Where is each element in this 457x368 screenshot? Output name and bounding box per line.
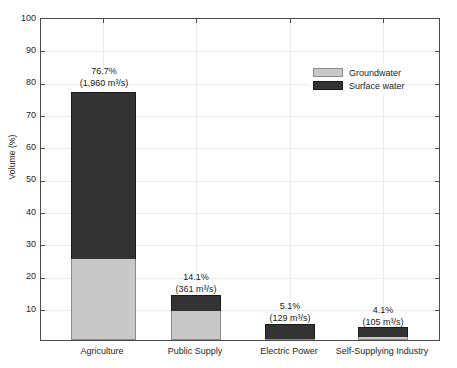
bar-annotation-flow-self-supplying-industry: (105 m³/s) — [313, 316, 453, 328]
y-tick-mark-right-50 — [435, 181, 439, 182]
y-tick-mark-70 — [41, 116, 45, 117]
y-tick-mark-40 — [41, 213, 45, 214]
y-tick-label-20: 20 — [6, 272, 36, 281]
y-tick-mark-60 — [41, 148, 45, 149]
bar-annotation-percent-public-supply: 14.1% — [126, 271, 266, 283]
x-tick-mark-top-public-supply — [196, 19, 197, 23]
y-tick-mark-right-60 — [435, 148, 439, 149]
bar-annotation-percent-self-supplying-industry: 4.1% — [313, 304, 453, 316]
y-tick-mark-50 — [41, 181, 45, 182]
y-axis-title: Volume (%) — [7, 117, 17, 197]
stacked-bar-chart: Volume (%) 100 90 80 70 60 50 40 30 20 1… — [0, 0, 457, 368]
gridline-x-electric-power — [290, 19, 291, 340]
y-tick-mark-right-80 — [435, 84, 439, 85]
y-tick-label-50: 50 — [6, 175, 36, 184]
bar-annotation-flow-public-supply: (361 m³/s) — [126, 283, 266, 295]
bar-segment-surface-water-public-supply[interactable] — [171, 295, 221, 312]
bar-public-supply[interactable] — [171, 295, 221, 341]
y-tick-label-30: 30 — [6, 240, 36, 249]
bar-segment-groundwater-self-supplying-industry[interactable] — [358, 337, 408, 340]
x-tick-label-self-supplying-industry: Self-Supplying Industry — [302, 346, 457, 356]
bar-electric-power[interactable] — [265, 324, 315, 341]
y-tick-label-90: 90 — [6, 46, 36, 55]
legend-swatch-groundwater-icon — [313, 68, 343, 77]
bar-annotation-flow-agriculture: (1,960 m³/s) — [34, 77, 174, 89]
gridline-y-90 — [41, 51, 439, 52]
legend-label-groundwater: Groundwater — [349, 68, 401, 78]
y-tick-mark-20 — [41, 278, 45, 279]
bar-annotation-self-supplying-industry: 4.1% (105 m³/s) — [313, 304, 453, 328]
y-tick-mark-right-90 — [435, 51, 439, 52]
y-tick-label-60: 60 — [6, 143, 36, 152]
bar-segment-surface-water-self-supplying-industry[interactable] — [358, 327, 408, 337]
x-tick-mark-top-self-supplying-industry — [383, 19, 384, 23]
legend-entry-surface-water[interactable]: Surface water — [313, 79, 405, 92]
y-tick-mark-right-30 — [435, 245, 439, 246]
y-tick-mark-right-70 — [435, 116, 439, 117]
y-tick-label-100: 100 — [6, 14, 36, 23]
bar-segment-groundwater-public-supply[interactable] — [171, 311, 221, 340]
y-tick-mark-right-20 — [435, 278, 439, 279]
bar-self-supplying-industry[interactable] — [358, 327, 408, 340]
bar-segment-groundwater-electric-power[interactable] — [265, 339, 315, 340]
y-tick-mark-10 — [41, 310, 45, 311]
bar-annotation-public-supply: 14.1% (361 m³/s) — [126, 271, 266, 295]
bar-annotation-agriculture: 76.7% (1,960 m³/s) — [34, 65, 174, 89]
x-tick-mark-top-electric-power — [290, 19, 291, 23]
y-tick-mark-90 — [41, 51, 45, 52]
y-tick-mark-30 — [41, 245, 45, 246]
y-tick-label-80: 80 — [6, 78, 36, 87]
y-tick-label-70: 70 — [6, 111, 36, 120]
bar-segment-surface-water-electric-power[interactable] — [265, 324, 315, 339]
legend-swatch-surface-water-icon — [313, 81, 343, 90]
bar-segment-surface-water-agriculture[interactable] — [71, 92, 136, 259]
x-tick-mark-top-agriculture — [103, 19, 104, 23]
y-tick-label-10: 10 — [6, 305, 36, 314]
bar-annotation-percent-agriculture: 76.7% — [34, 65, 174, 77]
legend-label-surface-water: Surface water — [349, 81, 405, 91]
y-tick-label-40: 40 — [6, 208, 36, 217]
bar-agriculture[interactable] — [71, 92, 136, 340]
legend-entry-groundwater[interactable]: Groundwater — [313, 66, 405, 79]
y-tick-mark-right-40 — [435, 213, 439, 214]
chart-legend[interactable]: Groundwater Surface water — [309, 63, 409, 95]
